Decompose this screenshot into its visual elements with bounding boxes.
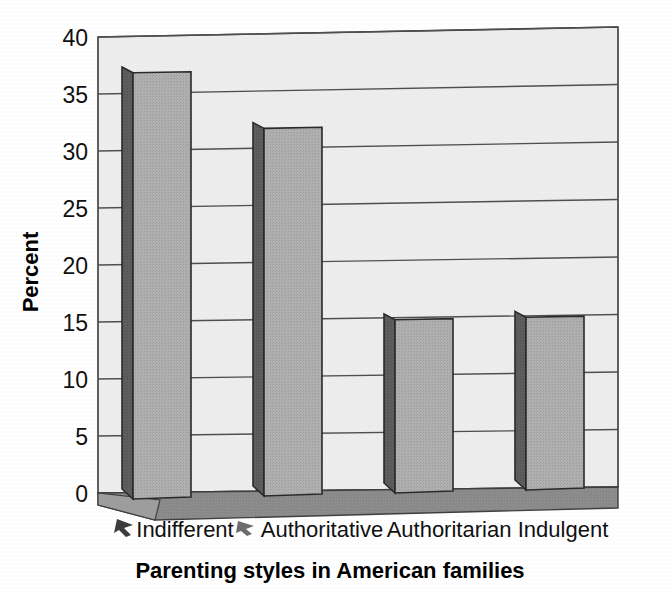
y-tick-40: 40 bbox=[62, 25, 88, 51]
y-tick-25: 25 bbox=[62, 196, 88, 222]
x-axis-categories: Indifferent Authoritative Authoritarian … bbox=[114, 517, 608, 542]
bar-indulgent-side bbox=[515, 311, 526, 490]
chart-canvas: 40 35 30 25 20 15 10 5 0 Percent Indiffe… bbox=[0, 0, 671, 590]
bar-authoritarian[interactable] bbox=[384, 314, 453, 493]
x-category-indifferent: Indifferent bbox=[136, 517, 233, 542]
bar-authoritarian-side bbox=[384, 314, 395, 493]
y-tick-10: 10 bbox=[62, 367, 88, 393]
y-tick-0: 0 bbox=[75, 481, 88, 507]
bar-indifferent[interactable] bbox=[122, 64, 191, 499]
bar-authoritarian-front bbox=[395, 319, 453, 493]
y-tick-30: 30 bbox=[62, 139, 88, 165]
bar-chart: 40 35 30 25 20 15 10 5 0 Percent Indiffe… bbox=[0, 0, 671, 590]
x-category-authoritarian: Authoritarian bbox=[387, 517, 512, 542]
y-axis-title: Percent bbox=[18, 231, 43, 312]
bar-authoritative-side bbox=[253, 123, 264, 496]
y-tick-20: 20 bbox=[62, 253, 88, 279]
bar-indulgent[interactable] bbox=[515, 311, 584, 490]
x-axis-title: Parenting styles in American families bbox=[135, 558, 524, 583]
x-category-authoritative: Authoritative bbox=[261, 517, 383, 542]
y-axis-title-group: Percent bbox=[18, 231, 43, 312]
bar-indifferent-front bbox=[133, 72, 191, 499]
bar-authoritative[interactable] bbox=[253, 123, 322, 496]
x-category-indulgent: Indulgent bbox=[518, 517, 609, 542]
y-tick-5: 5 bbox=[75, 424, 88, 450]
y-tick-35: 35 bbox=[62, 82, 88, 108]
y-tick-15: 15 bbox=[62, 310, 88, 336]
bar-indulgent-front bbox=[526, 316, 584, 490]
bar-authoritative-front bbox=[264, 127, 322, 496]
